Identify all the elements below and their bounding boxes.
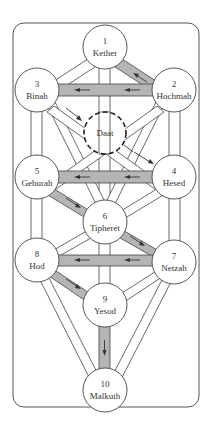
sephirah-netzah: 7 Netzah bbox=[152, 240, 196, 284]
malkuth-number: 10 bbox=[101, 379, 111, 389]
netzah-label: Netzah bbox=[161, 263, 187, 273]
daat-label: Daat bbox=[97, 128, 114, 138]
sephirah-malkuth: 10 Malkuth bbox=[83, 368, 127, 412]
hesed-number: 4 bbox=[172, 166, 177, 176]
netzah-circle bbox=[152, 240, 196, 284]
geburah-circle bbox=[15, 155, 59, 199]
binah-circle bbox=[15, 68, 59, 112]
malkuth-label: Malkuth bbox=[90, 391, 121, 401]
tipheret-label: Tipheret bbox=[90, 223, 121, 233]
kether-number: 1 bbox=[103, 36, 108, 46]
hochmah-number: 2 bbox=[172, 79, 177, 89]
hesed-label: Hesed bbox=[163, 178, 186, 188]
sephirah-binah: 3 Binah bbox=[15, 68, 59, 112]
binah-number: 3 bbox=[35, 79, 40, 89]
kether-label: Kether bbox=[93, 48, 118, 58]
yesod-circle bbox=[83, 283, 127, 327]
tipheret-circle bbox=[83, 200, 127, 244]
yesod-label: Yesod bbox=[94, 306, 117, 316]
hod-circle bbox=[15, 238, 59, 282]
sephirah-hod: 8 Hod bbox=[15, 238, 59, 282]
hod-label: Hod bbox=[29, 261, 45, 271]
sephirah-daat: Daat bbox=[84, 112, 126, 154]
malkuth-circle bbox=[83, 368, 127, 412]
geburah-label: Geburah bbox=[22, 178, 53, 188]
sephirah-geburah: 5 Geburah bbox=[15, 155, 59, 199]
tipheret-number: 6 bbox=[103, 211, 108, 221]
geburah-number: 5 bbox=[35, 166, 40, 176]
sephirah-hesed: 4 Hesed bbox=[152, 155, 196, 199]
sephirah-yesod: 9 Yesod bbox=[83, 283, 127, 327]
hochmah-label: Hochmah bbox=[157, 91, 192, 101]
hesed-circle bbox=[152, 155, 196, 199]
binah-label: Binah bbox=[26, 91, 48, 101]
hod-number: 8 bbox=[35, 249, 40, 259]
hochmah-circle bbox=[152, 68, 196, 112]
kether-circle bbox=[83, 25, 127, 69]
tree-of-life-diagram: Daat 1 Kether 2 Hochmah 3 Binah 4 Hesed … bbox=[0, 0, 211, 428]
yesod-number: 9 bbox=[103, 294, 108, 304]
sephirah-kether: 1 Kether bbox=[83, 25, 127, 69]
sephirah-tipheret: 6 Tipheret bbox=[83, 200, 127, 244]
sephirah-hochmah: 2 Hochmah bbox=[152, 68, 196, 112]
netzah-number: 7 bbox=[172, 251, 177, 261]
